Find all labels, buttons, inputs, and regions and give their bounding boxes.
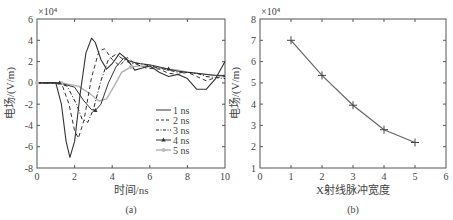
chart-a-panel-label: (a)	[125, 204, 136, 216]
chart-b-xtick: 5	[413, 171, 418, 182]
chart-b-ytick: 7	[251, 35, 256, 46]
chart-b-xlabel: X射线脉冲宽度	[316, 183, 390, 196]
chart-b-exponent: ×10⁴	[261, 6, 281, 17]
chart-b-panel-label: (b)	[347, 204, 359, 216]
chart-b-xtick: 6	[444, 171, 449, 182]
chart-b-ylabel: 电场/(V/m)	[228, 67, 242, 119]
chart-b-xtick: 0	[258, 171, 263, 182]
figure: 0 2 4 6 8 10 6 4 2 0 -2 -4 -6 -8 ×10⁴ 电场…	[0, 0, 453, 220]
chart-a-xlabel: 时间/ns	[114, 184, 149, 196]
chart-b-series-line	[291, 40, 415, 142]
chart-a-ytick: 2	[28, 56, 33, 67]
chart-a-ytick: -6	[25, 141, 33, 152]
chart-a: 0 2 4 6 8 10 6 4 2 0 -2 -4 -6 -8 ×10⁴ 电场…	[3, 6, 230, 216]
chart-b-ytick: 1	[251, 163, 256, 174]
chart-b-ytick: 3	[251, 120, 256, 131]
chart-b-ytick: 4	[251, 99, 256, 110]
series-1ns	[37, 38, 225, 157]
chart-b-ytick: 8	[251, 14, 256, 25]
chart-a-ylabel: 电场/(V/m)	[3, 67, 17, 119]
chart-a-ytick: -4	[25, 120, 33, 131]
chart-a-ytick: 0	[28, 77, 33, 88]
series-5ns	[37, 66, 225, 101]
chart-a-ytick: -8	[25, 163, 33, 174]
chart-b-frame	[260, 19, 446, 168]
chart-b-ytick: 6	[251, 56, 256, 67]
chart-b-ytick: 5	[251, 77, 256, 88]
chart-b-xtick: 2	[320, 171, 325, 182]
chart-b-markers	[287, 36, 419, 146]
chart-a-ytick: 6	[28, 14, 33, 25]
chart-a-xtick: 8	[185, 171, 190, 182]
chart-a-xtick: 0	[35, 171, 40, 182]
chart-a-xtick: 4	[110, 171, 115, 182]
series-2ns	[37, 49, 225, 138]
chart-a-series	[37, 38, 225, 157]
chart-b-xtick: 3	[351, 171, 356, 182]
chart-b-ytick: 2	[251, 141, 256, 152]
chart-b-xtick: 4	[382, 171, 387, 182]
chart-a-exponent: ×10⁴	[38, 6, 58, 17]
chart-a-markers	[35, 65, 171, 112]
chart-a-legend: 1 ns 2 ns 3 ns 4 ns 5 ns	[156, 105, 190, 156]
chart-b: 0 1 2 3 4 5 6 8 7 6 5 4 3 2 1 ×10⁴ 电场/(V…	[228, 6, 449, 216]
chart-a-xtick: 10	[220, 171, 230, 182]
chart-a-xtick: 2	[72, 171, 77, 182]
chart-b-xtick: 1	[289, 171, 294, 182]
chart-b-ticks	[260, 19, 446, 168]
legend-5ns: 5 ns	[173, 145, 190, 156]
chart-a-ytick: -2	[25, 99, 33, 110]
chart-a-ytick: 4	[28, 35, 33, 46]
chart-a-xtick: 6	[147, 171, 152, 182]
